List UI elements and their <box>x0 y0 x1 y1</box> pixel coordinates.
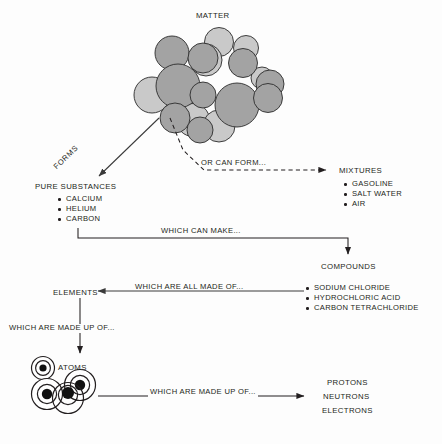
node-label-matter: MATTER <box>196 11 230 20</box>
node-label-pure-substances: PURE SUBSTANCES <box>35 182 116 191</box>
list-item: SALT WATER <box>343 189 402 199</box>
connector-label-elements-made-up-of: WHICH ARE MADE UP OF... <box>8 324 116 333</box>
connector-label-which-can-make: WHICH CAN MAKE... <box>161 227 241 236</box>
pure-substances-list: CALCIUM HELIUM CARBON <box>57 194 102 225</box>
list-item: HELIUM <box>57 204 102 214</box>
list-item: CALCIUM <box>57 194 102 204</box>
connector-forms-arrow <box>99 118 159 176</box>
diagram-canvas: MATTER FORMS OR CAN FORM... PURE SUBSTAN… <box>0 0 442 444</box>
list-item: CARBON TETRACHLORIDE <box>305 303 419 313</box>
list-item: SODIUM CHLORIDE <box>305 283 419 293</box>
list-item: AIR <box>343 199 402 209</box>
compounds-list: SODIUM CHLORIDE HYDROCHLORIC ACID CARBON… <box>305 283 419 314</box>
list-item: CARBON <box>57 214 102 224</box>
list-item: GASOLINE <box>343 179 402 189</box>
matter-molecule-cluster <box>134 28 284 144</box>
node-label-elements: ELEMENTS <box>53 288 98 297</box>
node-label-neutrons: NEUTRONS <box>323 392 370 401</box>
mixtures-list: GASOLINE SALT WATER AIR <box>343 179 402 210</box>
connector-label-which-are-all-made-of: WHICH ARE ALL MADE OF... <box>135 283 244 292</box>
node-label-mixtures: MIXTURES <box>339 166 382 175</box>
node-label-electrons: ELECTRONS <box>322 406 373 415</box>
connector-label-atoms-made-up-of: WHICH ARE MADE UP OF... <box>148 388 258 397</box>
list-item: HYDROCHLORIC ACID <box>305 293 419 303</box>
node-label-compounds: COMPOUNDS <box>321 262 376 271</box>
node-label-atoms: ATOMS <box>58 363 87 372</box>
node-label-protons: PROTONS <box>327 378 368 387</box>
atom-icon <box>32 357 55 380</box>
connector-label-or-can-form: OR CAN FORM... <box>201 159 266 168</box>
